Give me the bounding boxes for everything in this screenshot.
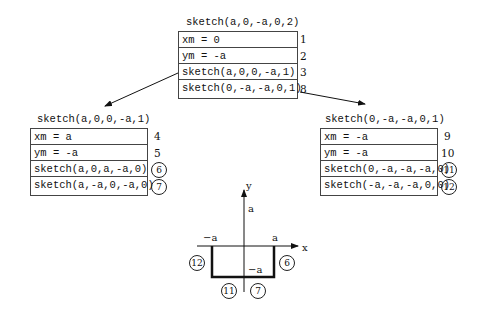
graph-circle-7: 7 [250, 283, 266, 299]
right-box: xm = -a ym = -a sketch(0,-a,-a,-a,0) ske… [320, 128, 438, 196]
right-row-2: ym = -a [321, 145, 437, 161]
top-row-2: ym = -a [179, 48, 297, 64]
arrow-to-right [300, 92, 365, 104]
left-box: xm = a ym = -a sketch(a,0,a,-a,0) sketch… [30, 128, 148, 196]
right-row-1: xm = -a [321, 129, 437, 145]
left-row-2: ym = -a [31, 145, 147, 161]
top-box: xm = 0 ym = -a sketch(a,0,0,-a,1) sketch… [178, 31, 298, 99]
left-row-4: sketch(a,-a,0,-a,0) [31, 177, 147, 193]
right-title: sketch(0,-a,-a,0,1) [325, 113, 445, 125]
right-row-4: sketch(-a,-a,-a,0,0) [321, 177, 437, 193]
arrow-to-left [105, 73, 178, 106]
top-num-3: 3 [300, 64, 307, 80]
top-row-4: sketch(0,-a,-a,0,1) [179, 80, 297, 96]
left-num-2: 5 [154, 145, 161, 161]
right-circle-3: 11 [441, 162, 457, 178]
right-num-2: 10 [441, 145, 454, 161]
y-axis-label: y [246, 180, 252, 191]
right-num-1: 9 [444, 128, 451, 144]
top-row-1: xm = 0 [179, 32, 297, 48]
left-circle-4: 7 [151, 179, 167, 195]
top-num-4: 8 [300, 81, 307, 97]
top-row-3: sketch(a,0,0,-a,1) [179, 64, 297, 80]
top-num-2: 2 [300, 48, 307, 64]
y-tick-a: a [248, 203, 254, 214]
graph-circle-11: 11 [221, 283, 237, 299]
graph-circle-6: 6 [279, 255, 295, 271]
left-title: sketch(a,0,0,-a,1) [37, 113, 150, 125]
right-circle-4: 12 [441, 179, 457, 195]
x-tick-neg-a: −a [203, 232, 217, 243]
left-circle-3: 6 [151, 162, 167, 178]
left-num-1: 4 [154, 128, 161, 144]
bottom-neg-a: −a [248, 264, 262, 275]
x-tick-a: a [272, 232, 278, 243]
top-title: sketch(a,0,-a,0,2) [186, 16, 299, 28]
x-axis-label: x [302, 242, 308, 253]
left-row-3: sketch(a,0,a,-a,0) [31, 161, 147, 177]
left-row-1: xm = a [31, 129, 147, 145]
graph-circle-12: 12 [189, 255, 205, 271]
top-num-1: 1 [300, 31, 307, 47]
right-row-3: sketch(0,-a,-a,-a,0) [321, 161, 437, 177]
sketch-path [212, 246, 274, 277]
